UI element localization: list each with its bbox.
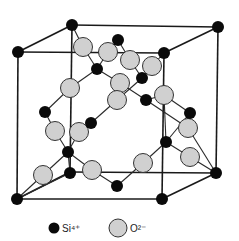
oxygen-atom [46,122,65,141]
oxygen-atom [99,43,118,62]
si-legend-marker-icon [49,223,60,234]
o-legend-label: O²⁻ [130,223,146,234]
silicon-atom [112,34,124,46]
silicon-atom [39,106,51,118]
cristobalite-unit-cell-diagram: Si⁴⁺ O²⁻ [0,0,239,241]
silicon-atom [111,180,123,192]
silicon-atom [158,47,170,59]
oxygen-atom [34,166,53,185]
cube-edge [17,52,18,199]
oxygen-atom [61,79,80,98]
silicon-atom [212,21,224,33]
silicon-atom [12,46,24,58]
silicon-atom [91,63,103,75]
silicon-atom [11,193,23,205]
silicon-atom [66,19,78,31]
silicon-atom [210,167,222,179]
oxygen-atom [111,74,130,93]
o-legend-marker-icon [109,219,127,237]
silicon-atom [140,94,152,106]
oxygen-atom [83,161,102,180]
oxygen-atom [181,148,200,167]
silicon-atom [156,193,168,205]
oxygen-atom [134,154,153,173]
silicon-atom [160,136,172,148]
oxygen-atom [74,38,93,57]
si-legend-label: Si⁴⁺ [62,223,80,234]
silicon-atom [62,146,74,158]
silicon-atom [136,72,148,84]
silicon-atom [64,167,76,179]
oxygen-atom [121,51,140,70]
oxygen-atom [108,91,127,110]
oxygen-atom [179,119,198,138]
silicon-atom [184,107,196,119]
silicon-atom [85,117,97,129]
oxygen-atom [155,86,174,105]
oxygen-atom [143,57,162,76]
